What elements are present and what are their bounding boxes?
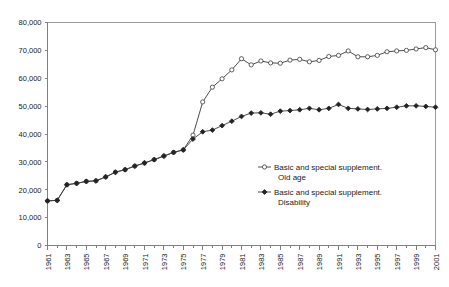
x-tick-label: 1963 bbox=[63, 254, 72, 271]
x-tick-label: 1997 bbox=[393, 254, 402, 271]
data-point bbox=[385, 50, 389, 54]
x-tick-label: 1969 bbox=[121, 254, 130, 271]
x-tick-label: 1965 bbox=[82, 254, 91, 271]
y-tick-label: 10,000 bbox=[19, 213, 42, 222]
data-point bbox=[366, 55, 370, 59]
x-tick-label: 1975 bbox=[179, 254, 188, 271]
y-tick-label: 0 bbox=[37, 241, 41, 250]
x-tick-label: 1971 bbox=[141, 254, 150, 271]
data-point bbox=[414, 47, 418, 51]
data-point bbox=[259, 59, 263, 63]
data-point bbox=[230, 68, 234, 72]
y-tick-label: 50,000 bbox=[19, 102, 42, 111]
y-tick-label: 60,000 bbox=[19, 74, 42, 83]
legend-label-line2: Old age bbox=[278, 173, 307, 182]
chart-container: 010,00020,00030,00040,00050,00060,00070,… bbox=[0, 0, 449, 287]
x-tick-label: 1995 bbox=[373, 254, 382, 271]
x-tick-label: 1983 bbox=[257, 254, 266, 271]
data-point bbox=[424, 45, 428, 49]
chart-background bbox=[0, 0, 449, 287]
data-point bbox=[239, 57, 243, 61]
data-point bbox=[307, 60, 311, 64]
x-tick-label: 1993 bbox=[354, 254, 363, 271]
legend-label-line1: Basic and special supplement. bbox=[274, 163, 382, 172]
data-point bbox=[395, 49, 399, 53]
y-tick-label: 80,000 bbox=[19, 18, 42, 27]
data-point bbox=[210, 85, 214, 89]
x-tick-label: 1973 bbox=[160, 254, 169, 271]
y-tick-label: 30,000 bbox=[19, 158, 42, 167]
data-point bbox=[336, 53, 340, 57]
x-tick-label: 1961 bbox=[44, 254, 53, 271]
y-tick-label: 70,000 bbox=[19, 46, 42, 55]
data-point bbox=[278, 61, 282, 65]
x-tick-label: 1977 bbox=[199, 254, 208, 271]
data-point bbox=[327, 54, 331, 58]
data-point bbox=[269, 61, 273, 65]
data-point bbox=[346, 49, 350, 53]
y-tick-label: 40,000 bbox=[19, 130, 42, 139]
data-point bbox=[249, 63, 253, 67]
data-point bbox=[404, 48, 408, 52]
data-point bbox=[375, 53, 379, 57]
legend-label-line2: Disability bbox=[278, 198, 310, 207]
x-tick-label: 1987 bbox=[296, 254, 305, 271]
x-tick-label: 1989 bbox=[315, 254, 324, 271]
data-point bbox=[356, 55, 360, 59]
x-tick-label: 1991 bbox=[335, 254, 344, 271]
x-tick-label: 1999 bbox=[412, 254, 421, 271]
legend-label-line1: Basic and special supplement. bbox=[274, 188, 382, 197]
data-point bbox=[220, 77, 224, 81]
x-tick-label: 1979 bbox=[218, 254, 227, 271]
x-tick-label: 1985 bbox=[276, 254, 285, 271]
x-tick-label: 1981 bbox=[238, 254, 247, 271]
x-tick-label: 1967 bbox=[102, 254, 111, 271]
y-tick-label: 20,000 bbox=[19, 186, 42, 195]
data-point bbox=[433, 48, 437, 52]
data-point bbox=[288, 58, 292, 62]
data-point bbox=[298, 57, 302, 61]
line-chart: 010,00020,00030,00040,00050,00060,00070,… bbox=[0, 0, 449, 287]
data-point bbox=[317, 58, 321, 62]
legend-marker bbox=[262, 165, 266, 169]
data-point bbox=[201, 100, 205, 104]
x-tick-label: 2001 bbox=[432, 254, 441, 271]
